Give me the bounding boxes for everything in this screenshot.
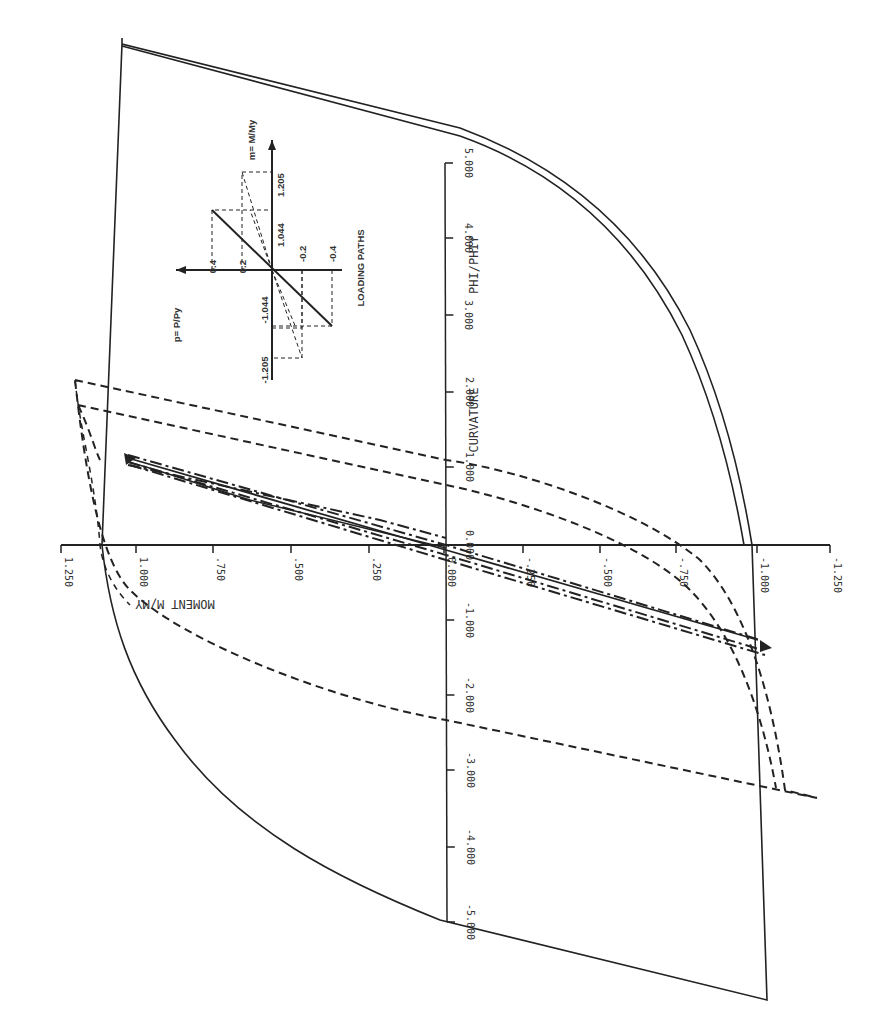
endpoint-triangle-bottom (760, 640, 772, 652)
svg-text:-0.2: -0.2 (297, 246, 308, 262)
series-dashdot-b (128, 462, 762, 650)
moment-tick-label: .500 (293, 557, 304, 581)
moment-tick-label: 1.250 (63, 557, 74, 587)
inset-m-arrow-icon (268, 140, 276, 150)
svg-text:1.044: 1.044 (275, 222, 286, 246)
curvature-tick-label: -5.000 (465, 904, 476, 940)
svg-text:1.205: 1.205 (275, 172, 286, 196)
moment-curvature-chart: 1.2501.000.750.500.2500.000-.250-.500-.7… (0, 0, 894, 1031)
series-dashed-loop-inner (78, 405, 776, 788)
svg-text:-1.205: -1.205 (259, 356, 270, 384)
svg-text:-1.044: -1.044 (259, 296, 270, 324)
inset-p-label: p= P/Py (171, 307, 182, 342)
moment-tick-label: -1.250 (832, 557, 843, 593)
moment-tick-label: -1.000 (759, 557, 770, 593)
inset-m-label: m= M/My (246, 119, 257, 160)
moment-tick-label: .750 (215, 557, 226, 581)
svg-text:0.2: 0.2 (237, 260, 248, 273)
svg-text:-0.4: -0.4 (327, 245, 338, 262)
inset-title: LOADING PATHS (355, 229, 366, 306)
curvature-axis-title-1: CURVATURE (467, 387, 481, 452)
curvature-tick-label: 5.000 (463, 148, 474, 178)
curvature-tick-label: -2.000 (464, 677, 475, 713)
moment-tick-label: .250 (371, 557, 382, 581)
curvature-axis (445, 163, 447, 922)
series-solid-loop-a (102, 38, 767, 1000)
inset-p-arrow-icon (176, 266, 186, 274)
loading-paths-inset: 0.4 0.2 -0.2 -0.4 1.044 1.205 -1.044 -1.… (171, 119, 366, 383)
curvature-axis-title-2: PHI/PHIY (467, 235, 481, 294)
moment-tick-label: -.500 (602, 557, 613, 587)
curvature-tick-label: 1.000 (464, 452, 475, 482)
curvature-tick-label: 3.000 (463, 300, 474, 330)
svg-text:0.4: 0.4 (207, 259, 218, 273)
series-solid-inner (128, 458, 758, 640)
curvature-tick-label: -1.000 (464, 602, 475, 638)
moment-tick-label: -.750 (678, 557, 689, 587)
curvature-tick-label: -4.000 (465, 829, 476, 865)
moment-tick-label: 1.000 (138, 557, 149, 587)
curvature-tick-label: -3.000 (465, 752, 476, 788)
